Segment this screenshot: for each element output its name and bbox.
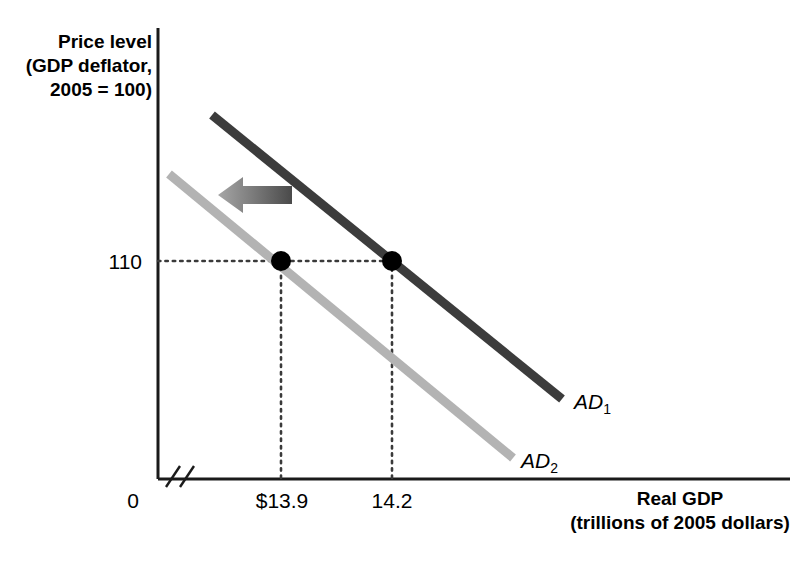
axis-origin-label: 0 [120, 488, 146, 514]
y-axis-title: Price level (GDP deflator, 2005 = 100) [18, 30, 152, 102]
x-axis-tick-label-14-2: 14.2 [355, 488, 429, 514]
ad1-label-subscript: 1 [603, 401, 611, 417]
ad2-label-text: AD [521, 449, 550, 472]
y-axis-tick-label-110: 110 [86, 249, 142, 275]
x-axis-title: Real GDP (trillions of 2005 dollars) [556, 487, 804, 535]
equilibrium-point-ad2 [271, 251, 291, 271]
equilibrium-point-ad1 [382, 251, 402, 271]
ad1-label-text: AD [574, 390, 603, 413]
x-axis-tick-label-13-9: $13.9 [238, 488, 326, 514]
axis-break-mark [166, 466, 194, 487]
aggregate-demand-shift-figure: Price level (GDP deflator, 2005 = 100) R… [0, 0, 811, 562]
ad1-curve-label: AD1 [574, 389, 611, 419]
ad2-curve-label: AD2 [521, 448, 558, 478]
ad2-label-subscript: 2 [550, 460, 558, 476]
leftward-shift-arrow [218, 177, 292, 213]
